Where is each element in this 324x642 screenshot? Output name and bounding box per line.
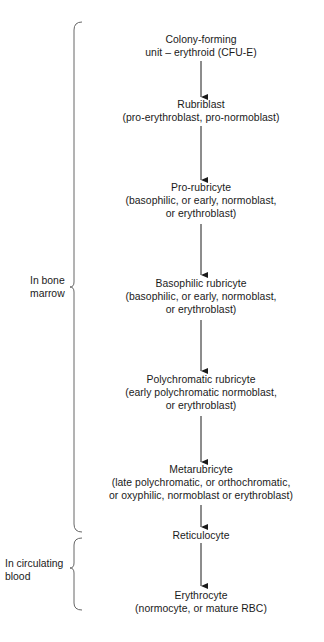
node-rubriblast: Rubriblast (pro-erythroblast, pro-normob… [90, 98, 312, 124]
node-synonyms: or oxyphilic, normoblast or erythroblast… [80, 489, 322, 502]
node-metarubricyte: Metarubricyte (late polychromatic, or or… [80, 463, 322, 502]
node-cfu-e: Colony-forming unit – erythroid (CFU-E) [90, 33, 312, 59]
node-reticulocyte: Reticulocyte [90, 529, 312, 542]
node-synonyms: (early polychromatic normoblast, [90, 386, 312, 399]
node-synonyms: (late polychromatic, or orthochromatic, [80, 476, 322, 489]
node-erythrocyte: Erythrocyte (normocyte, or mature RBC) [90, 589, 312, 615]
node-title: Erythrocyte [90, 589, 312, 602]
node-synonyms: or erythroblast) [90, 303, 312, 316]
node-synonyms: (basophilic, or early, normoblast, [90, 194, 312, 207]
node-title: Polychromatic rubricyte [90, 373, 312, 386]
figure-caption-cutoff [0, 634, 324, 642]
brace-circulating-blood [70, 538, 82, 610]
node-title: Basophilic rubricyte [90, 277, 312, 290]
group-label-line: blood [5, 570, 63, 583]
group-label-line: In circulating [5, 557, 63, 570]
node-basophilic-rubricyte: Basophilic rubricyte (basophilic, or ear… [90, 277, 312, 316]
group-label-circulating-blood: In circulating blood [5, 557, 63, 583]
node-synonyms: or erythroblast) [90, 399, 312, 412]
node-title: Reticulocyte [90, 529, 312, 542]
node-subtitle: unit – erythroid (CFU-E) [90, 46, 312, 59]
node-title: Metarubricyte [80, 463, 322, 476]
node-synonyms: (normocyte, or mature RBC) [90, 602, 312, 615]
node-title: Colony-forming [90, 33, 312, 46]
connectors-layer [0, 0, 324, 642]
group-label-line: In bone [30, 274, 65, 287]
node-synonyms: or erythroblast) [90, 207, 312, 220]
erythropoiesis-diagram: Colony-forming unit – erythroid (CFU-E) … [0, 0, 324, 642]
node-synonyms: (basophilic, or early, normoblast, [90, 290, 312, 303]
group-label-line: marrow [30, 287, 65, 300]
group-label-bone-marrow: In bone marrow [30, 274, 65, 300]
node-polychromatic-rubricyte: Polychromatic rubricyte (early polychrom… [90, 373, 312, 412]
node-pro-rubricyte: Pro-rubricyte (basophilic, or early, nor… [90, 181, 312, 220]
brace-bone-marrow [70, 22, 82, 532]
node-title: Pro-rubricyte [90, 181, 312, 194]
node-synonyms: (pro-erythroblast, pro-normoblast) [90, 111, 312, 124]
node-title: Rubriblast [90, 98, 312, 111]
